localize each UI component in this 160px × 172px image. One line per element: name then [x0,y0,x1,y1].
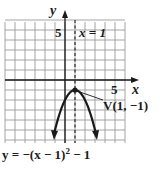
y-axis-arrow-icon [62,10,68,18]
symmetry-label: x = 1 [78,25,106,40]
graph: y x 5 5 x = 1 V(1, −1) y = −(x − 1)2 − 1 [0,0,160,172]
x-tick-label: 5 [111,82,118,97]
vertex-point [72,87,77,92]
curve-right-arrow-icon [92,130,99,140]
equation-label: y = −(x − 1)2 − 1 [2,146,90,162]
curve-left-arrow-icon [51,130,58,140]
vertex-leader-line [77,91,103,100]
equation-prefix: y = −(x − 1) [2,147,65,162]
equation-suffix: − 1 [70,147,90,162]
vertex-label: V(1, −1) [103,98,148,113]
y-axis-label: y [48,3,57,18]
x-axis-label: x [131,82,139,97]
y-tick-label: 5 [55,25,62,40]
